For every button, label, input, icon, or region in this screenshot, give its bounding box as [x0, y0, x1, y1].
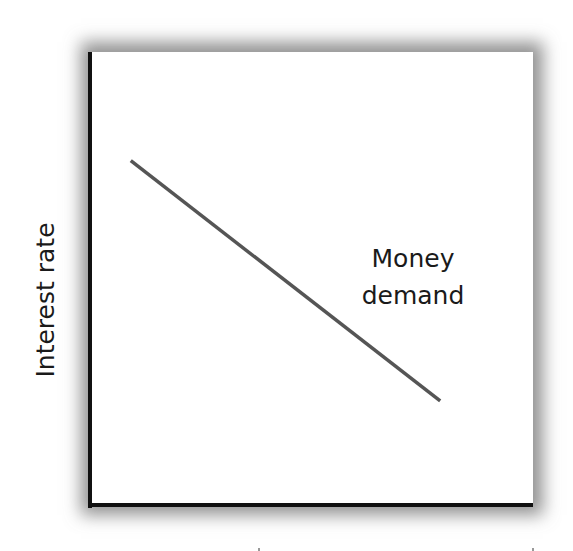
y-axis — [88, 52, 92, 508]
curve-label: Money demand — [362, 240, 465, 314]
y-axis-label: Interest rate — [31, 222, 60, 377]
curve-label-line-1: Money — [362, 240, 465, 277]
curve-label-line-2: demand — [362, 277, 465, 314]
plot-canvas — [91, 52, 533, 505]
x-axis — [88, 503, 533, 507]
money-demand-chart: Interest rate Money demand — [0, 0, 573, 551]
